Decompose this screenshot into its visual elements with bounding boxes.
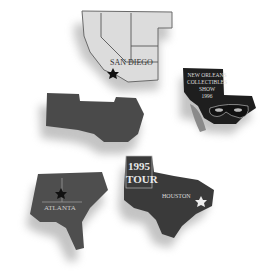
pin-year: 1995 — [128, 160, 151, 172]
pin-tour: TOUR — [126, 173, 159, 185]
pin-atlanta: ATLANTA — [26, 172, 108, 262]
pins-photo: SAN DIEGO NEW ORLEANS COLLECTIBLES SHOW … — [0, 0, 280, 274]
pin-label-houston: HOUSTON — [162, 193, 191, 199]
pin-text-line: 1996 — [202, 93, 213, 99]
pin-houston: 1995 TOUR HOUSTON — [118, 156, 214, 248]
pin-label-atlanta: ATLANTA — [44, 204, 76, 212]
pin-text-line: SHOW — [199, 86, 216, 92]
pin-text-line: NEW ORLEANS — [187, 72, 226, 78]
pin-new-orleans: NEW ORLEANS COLLECTIBLES SHOW 1996 — [180, 68, 256, 134]
pin-southwest: SAN DIEGO — [74, 11, 172, 92]
pin-label-san-diego: SAN DIEGO — [110, 58, 153, 67]
pin-midwest — [39, 93, 144, 154]
pin-text-line: COLLECTIBLES — [187, 79, 227, 85]
